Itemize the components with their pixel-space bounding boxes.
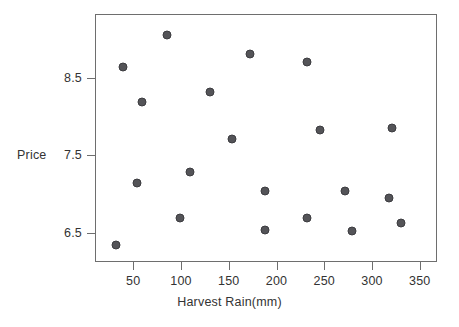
plot-area bbox=[95, 14, 437, 262]
data-point bbox=[396, 219, 405, 228]
y-tick-mark bbox=[87, 78, 95, 79]
data-point bbox=[261, 226, 270, 235]
x-tick-label: 50 bbox=[113, 274, 153, 288]
data-point bbox=[316, 126, 325, 135]
x-tick-mark bbox=[133, 262, 134, 270]
y-tick-mark bbox=[87, 233, 95, 234]
y-tick-mark bbox=[87, 155, 95, 156]
x-tick-mark bbox=[229, 262, 230, 270]
x-tick-mark bbox=[277, 262, 278, 270]
data-point bbox=[185, 168, 194, 177]
data-point bbox=[227, 134, 236, 143]
data-point bbox=[205, 87, 214, 96]
x-tick-label: 200 bbox=[257, 274, 297, 288]
data-point bbox=[133, 178, 142, 187]
data-point bbox=[347, 227, 356, 236]
data-point bbox=[388, 123, 397, 132]
x-tick-label: 300 bbox=[352, 274, 392, 288]
data-point bbox=[303, 58, 312, 67]
data-point bbox=[341, 187, 350, 196]
y-tick-label: 8.5 bbox=[42, 71, 82, 85]
x-axis-label: Harvest Rain(mm) bbox=[0, 295, 459, 309]
x-tick-mark bbox=[324, 262, 325, 270]
x-tick-mark bbox=[181, 262, 182, 270]
scatter-chart-figure: 6.57.58.550100150200250300350 Price Harv… bbox=[0, 0, 459, 327]
data-point bbox=[385, 193, 394, 202]
data-point bbox=[137, 97, 146, 106]
x-tick-mark bbox=[420, 262, 421, 270]
y-tick-label: 6.5 bbox=[42, 226, 82, 240]
data-point bbox=[162, 30, 171, 39]
data-point bbox=[112, 240, 121, 249]
data-point bbox=[118, 62, 127, 71]
data-point bbox=[303, 213, 312, 222]
y-axis-label: Price bbox=[17, 148, 46, 162]
x-tick-label: 150 bbox=[209, 274, 249, 288]
data-point bbox=[245, 50, 254, 59]
x-tick-label: 250 bbox=[304, 274, 344, 288]
data-point bbox=[176, 213, 185, 222]
data-point bbox=[261, 187, 270, 196]
y-tick-label: 7.5 bbox=[42, 148, 82, 162]
x-tick-label: 100 bbox=[161, 274, 201, 288]
x-tick-label: 350 bbox=[400, 274, 440, 288]
x-tick-mark bbox=[372, 262, 373, 270]
